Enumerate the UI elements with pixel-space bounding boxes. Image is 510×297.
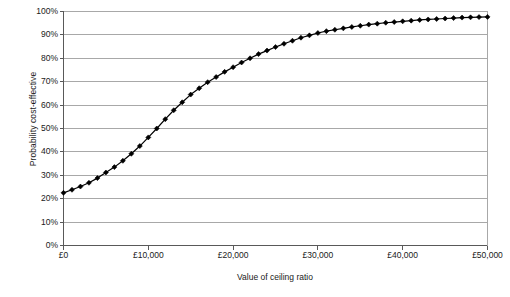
x-tick-label: £20,000: [193, 251, 273, 260]
x-tick-label: £50,000: [448, 251, 510, 260]
x-tick-label: £10,000: [108, 251, 188, 260]
x-tick-label: £0: [24, 251, 104, 260]
x-tick-label: £40,000: [363, 251, 443, 260]
x-axis-tick-labels: £0£10,000£20,000£30,000£40,000£50,000: [0, 251, 510, 265]
y-axis-ticks: [60, 12, 64, 246]
x-axis-ticks: [64, 246, 488, 250]
x-tick-label: £30,000: [278, 251, 358, 260]
cropped-caption-strip: [0, 289, 510, 297]
cost-effectiveness-acceptability-chart: Probability cost-effective 100%90%80%70%…: [0, 0, 510, 297]
x-axis-title: Value of ceiling ratio: [63, 272, 487, 282]
